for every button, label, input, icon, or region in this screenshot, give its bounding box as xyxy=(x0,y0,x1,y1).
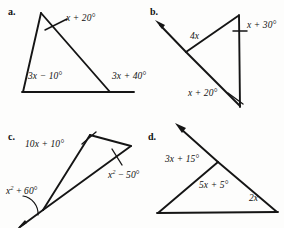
figure-c-arc-bottom-left xyxy=(23,196,38,215)
figure-c-tick-right-vertex xyxy=(112,149,122,165)
part-label-d: d. xyxy=(148,131,156,142)
figure-c-tick-apex xyxy=(82,132,96,144)
figure-b-ray-upper-left xyxy=(160,25,186,52)
figure-b-angle-label-bottom-right: x + 20° xyxy=(188,88,217,98)
figure-b-vertical-right-side xyxy=(239,15,240,107)
part-label-a: a. xyxy=(8,6,16,17)
figure-d-angle-label-interior: 5x + 5° xyxy=(199,180,228,190)
figure-b-angle-label-top-right: x + 30° xyxy=(247,20,276,30)
figure-a-angle-label-bottom-left: 3x − 10° xyxy=(28,71,62,81)
figure-d-angle-label-exterior: 3x + 15° xyxy=(165,154,199,164)
figure-c-angle-label-right: x2 − 50° xyxy=(108,168,140,180)
figure-a-angle-label-apex: x + 20° xyxy=(66,13,95,23)
geometry-worksheet-figure: a. b. c. d. x + 20° 3x − 10° 3x + 40° x … xyxy=(0,0,284,228)
figure-d-shapes xyxy=(157,123,278,213)
figure-d-base xyxy=(157,212,278,213)
figure-b-side-label-4x: 4x xyxy=(190,31,199,41)
part-label-b: b. xyxy=(150,6,158,17)
figure-d-angle-label-bottom-right: 2x xyxy=(249,193,258,203)
figures-canvas xyxy=(0,0,284,228)
figure-a-angle-label-exterior-right: 3x + 40° xyxy=(112,71,146,81)
figure-c-top-side xyxy=(90,135,131,146)
figure-c-angle-label-bottom-left: x2 + 60° xyxy=(6,184,38,196)
part-label-c: c. xyxy=(8,131,15,142)
figure-c-angle-label-apex: 10x + 10° xyxy=(25,139,64,149)
